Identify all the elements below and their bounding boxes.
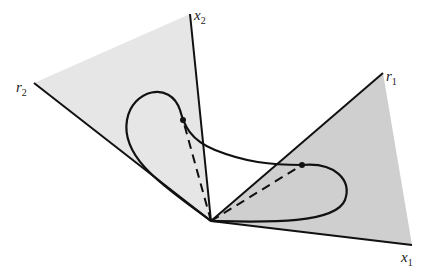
x2-label: x2 xyxy=(193,7,206,26)
diagram: x2 r2 r1 x1 xyxy=(0,0,432,273)
cone-diagram: x2 r2 r1 x1 xyxy=(0,0,432,273)
r1-label: r1 xyxy=(386,68,397,87)
r2-label: r2 xyxy=(16,79,27,98)
x1-label: x1 xyxy=(400,249,413,268)
left-point-marker xyxy=(180,117,186,123)
right-point-marker xyxy=(299,162,305,168)
